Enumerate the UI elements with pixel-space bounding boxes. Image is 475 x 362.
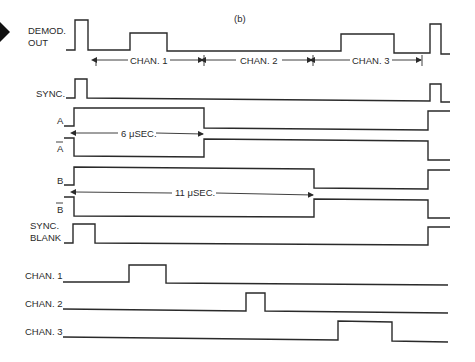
waveform-chan3 (63, 321, 448, 342)
pointer-arrow-icon (0, 22, 10, 42)
waveform-b-bar (64, 197, 450, 218)
waveform-sync-blank (64, 224, 450, 245)
label-demod-out-line2: OUT (28, 37, 48, 48)
label-sync-blank-line2: BLANK (30, 232, 62, 243)
dim-chan3: CHAN. 3 (352, 55, 389, 66)
label-chan3: CHAN. 3 (25, 326, 62, 337)
dim-a-width: 6 μSEC. (121, 128, 157, 139)
waveform-chan1 (63, 265, 448, 285)
label-sync: SYNC. (36, 88, 65, 99)
dim-chan2: CHAN. 2 (240, 55, 277, 66)
b-width-dimension: 11 μSEC. (75, 187, 313, 198)
waveform-a-bar (64, 138, 450, 160)
label-b-bar: B (57, 204, 63, 215)
waveform-demod-out (66, 20, 450, 54)
waveform-sync (66, 79, 450, 102)
channel-dimension-line: CHAN. 1 CHAN. 2 CHAN. 3 (96, 55, 422, 66)
label-demod-out-line1: DEMOD. (28, 25, 66, 36)
waveform-a (64, 108, 450, 130)
label-a: A (57, 115, 64, 126)
a-width-dimension: 6 μSEC. (75, 128, 203, 139)
timing-diagram: (b) DEMOD. OUT CHAN. 1 CHAN. 2 CHAN. 3 S… (0, 0, 475, 362)
dim-b-width: 11 μSEC. (175, 187, 215, 198)
panel-label: (b) (234, 13, 246, 24)
label-chan1: CHAN. 1 (25, 270, 62, 281)
label-sync-blank-line1: SYNC. (30, 220, 59, 231)
dim-chan1: CHAN. 1 (130, 55, 167, 66)
waveform-b (64, 167, 450, 189)
waveform-chan2 (63, 293, 448, 313)
label-chan2: CHAN. 2 (25, 298, 62, 309)
label-b: B (57, 175, 63, 186)
label-a-bar: A (57, 143, 64, 154)
